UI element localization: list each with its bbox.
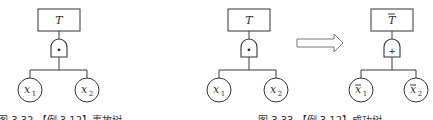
figure-caption-right: 图 3.33 【例 3.12】成功树 — [258, 114, 382, 120]
basic-event-label: x — [213, 83, 220, 96]
basic-event-subscript: 1 — [221, 90, 225, 98]
transform-arrow-icon — [297, 34, 343, 52]
basic-event-label: x — [410, 83, 417, 96]
basic-event-label: x — [81, 83, 88, 96]
fault-tree-left: T • x 1 x 2 图 3.32 【例 3.12】事故树 — [0, 9, 122, 120]
basic-event-label: x — [270, 83, 277, 96]
basic-event-subscript: 2 — [418, 90, 422, 98]
basic-event-label: x — [24, 83, 31, 96]
basic-event-label: x — [355, 83, 362, 96]
success-tree: T + x 1 x 2 图 3.33 【例 3.12】成功树 — [258, 9, 428, 120]
figure-caption-left: 图 3.32 【例 3.12】事故树 — [0, 114, 122, 120]
gate-symbol: • — [246, 45, 251, 55]
gate-symbol: • — [56, 45, 61, 55]
basic-event-subscript: 2 — [89, 90, 93, 98]
basic-event-subscript: 2 — [278, 90, 282, 98]
fault-tree-middle: T • x 1 x 2 — [207, 9, 288, 102]
basic-event-subscript: 1 — [363, 90, 367, 98]
gate-symbol: + — [388, 46, 396, 56]
diagram-canvas: T • x 1 x 2 图 3.32 【例 3.12】事故树 T • x 1 x… — [0, 0, 433, 120]
basic-event-subscript: 1 — [32, 90, 36, 98]
